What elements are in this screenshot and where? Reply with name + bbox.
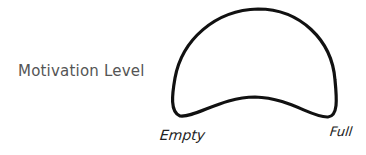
x-axis-label-empty: Empty xyxy=(159,127,206,143)
dome-outline xyxy=(173,9,337,117)
x-axis-label-full: Full xyxy=(329,124,353,139)
